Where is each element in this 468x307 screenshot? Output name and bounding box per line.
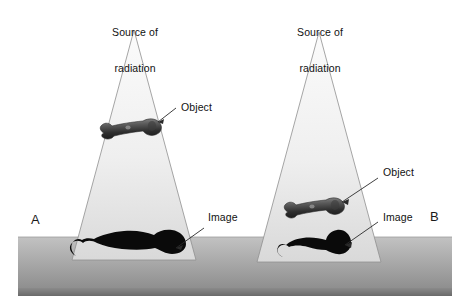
source-label-b-line2: radiation [283,62,357,74]
source-label-a-line2: radiation [98,62,172,74]
image-label-a: Image [208,211,238,223]
object-head-a [148,121,156,131]
image-label-b: Image [383,211,413,223]
source-label-b-line1: Source of [283,26,357,38]
panel-letter-b: B [430,210,439,224]
object-label-a: Object [181,101,212,113]
object-highlight-b [309,205,314,209]
object-label-b: Object [383,166,414,178]
source-label-a: Source of radiation [98,2,172,98]
object-head-b [331,200,339,210]
panel-letter-a: A [31,213,40,227]
leader-object-a [158,108,176,122]
object-highlight-a [125,126,130,130]
radiography-magnification-figure: Source of radiation Object Image A Sourc… [0,0,468,307]
source-label-a-line1: Source of [98,26,172,38]
ground-front-edge [18,288,452,296]
source-label-b: Source of radiation [283,2,357,98]
diagram-canvas [0,0,468,307]
